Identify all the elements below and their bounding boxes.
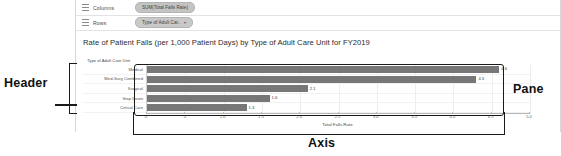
annotation-header-label: Header — [4, 76, 48, 90]
x-axis-tick-label: 5.0 — [526, 114, 532, 119]
annotation-axis-label: Axis — [308, 136, 335, 150]
columns-shelf[interactable]: Columns SUM(Total Falls Rate) — [76, 0, 560, 16]
rows-pill-label: Type of Adult Car.. — [142, 20, 181, 25]
row-field-caption[interactable]: Type of Adult Care Unit — [87, 58, 130, 63]
header-bracket — [69, 63, 77, 114]
grip-icon — [82, 4, 89, 11]
rows-shelf-label: Rows — [93, 20, 135, 26]
viz-title: Rate of Patient Falls (per 1,000 Patient… — [83, 38, 370, 47]
grip-icon — [82, 19, 89, 26]
annotation-pane-label: Pane — [513, 82, 544, 96]
header-bracket-stem — [55, 104, 77, 106]
pane-bracket — [134, 64, 504, 116]
columns-pill-sum-total-falls-rate[interactable]: SUM(Total Falls Rate) — [135, 2, 195, 13]
axis-bracket — [133, 112, 505, 135]
columns-pill-label: SUM(Total Falls Rate) — [142, 5, 188, 10]
rows-pill-type-of-adult-care-unit[interactable]: Type of Adult Car.. ▾ — [135, 17, 193, 28]
columns-shelf-label: Columns — [93, 5, 135, 11]
rows-shelf[interactable]: Rows Type of Adult Car.. ▾ — [76, 15, 560, 31]
chevron-down-icon[interactable]: ▾ — [184, 20, 186, 25]
